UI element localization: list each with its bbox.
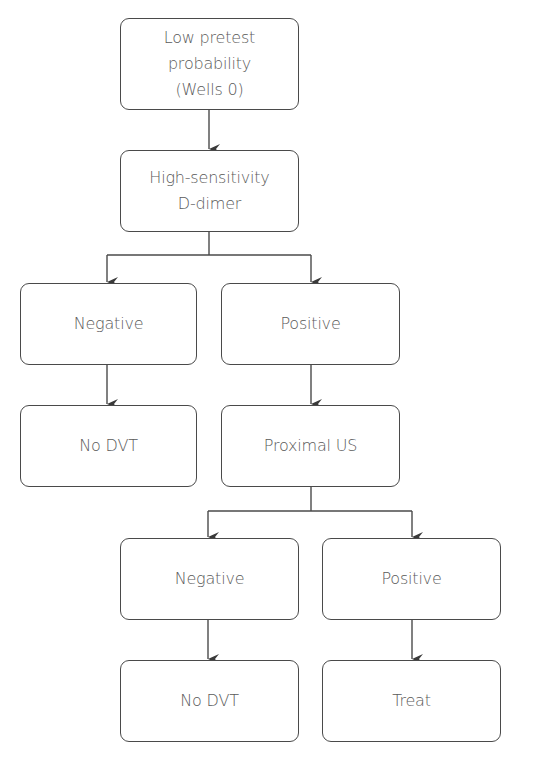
node-label: Proximal US [264,433,357,459]
node-treat: Treat [322,660,501,742]
node-label: No DVT [180,688,238,714]
node-label: Low pretest probability (Wells 0) [164,25,255,103]
node-no-dvt-2: No DVT [120,660,299,742]
node-ddimer-negative: Negative [20,283,197,365]
node-label: Positive [381,566,441,592]
node-label: Negative [175,566,245,592]
node-us-positive: Positive [322,538,501,620]
node-label: High-sensitivity D-dimer [149,165,269,217]
node-label: No DVT [79,433,137,459]
flowchart-connectors [0,0,540,767]
node-ddimer-positive: Positive [221,283,400,365]
node-label: Positive [280,311,340,337]
node-label: Negative [74,311,144,337]
node-proximal-us: Proximal US [221,405,400,487]
node-ddimer: High-sensitivity D-dimer [120,150,299,232]
node-pretest-probability: Low pretest probability (Wells 0) [120,18,299,110]
node-label: Treat [392,688,431,714]
node-us-negative: Negative [120,538,299,620]
node-no-dvt-1: No DVT [20,405,197,487]
